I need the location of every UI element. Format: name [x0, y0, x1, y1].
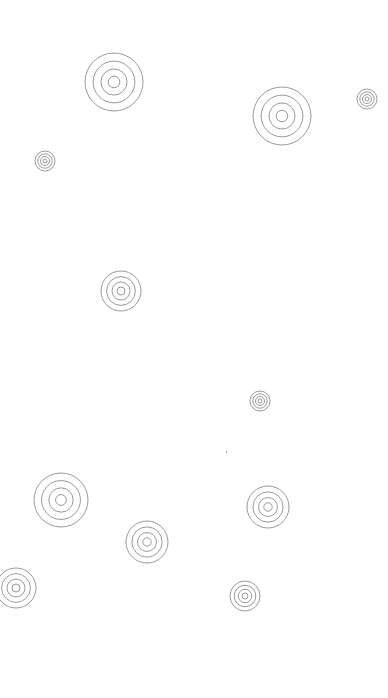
concentric-circle-target[interactable] — [355, 87, 379, 111]
concentric-circle-target[interactable] — [32, 471, 90, 529]
target-rings-icon — [245, 484, 291, 530]
concentric-circle-target[interactable] — [251, 85, 313, 147]
concentric-circle-target[interactable] — [83, 51, 145, 113]
concentric-circle-target[interactable] — [99, 269, 143, 313]
target-canvas — [0, 0, 388, 698]
target-rings-icon — [248, 389, 272, 413]
target-rings-icon — [99, 269, 143, 313]
concentric-circle-target[interactable] — [0, 566, 38, 610]
target-rings-icon — [83, 51, 145, 113]
concentric-circle-target[interactable] — [245, 484, 291, 530]
target-rings-icon — [0, 566, 38, 610]
concentric-circle-target[interactable] — [228, 579, 262, 613]
target-rings-icon — [33, 149, 57, 173]
target-rings-icon — [124, 519, 170, 565]
speck-dot — [226, 451, 227, 453]
target-rings-icon — [228, 579, 262, 613]
concentric-circle-target[interactable] — [33, 149, 57, 173]
target-rings-icon — [32, 471, 90, 529]
concentric-circle-target[interactable] — [248, 389, 272, 413]
concentric-circle-target[interactable] — [124, 519, 170, 565]
target-rings-icon — [355, 87, 379, 111]
target-rings-icon — [251, 85, 313, 147]
